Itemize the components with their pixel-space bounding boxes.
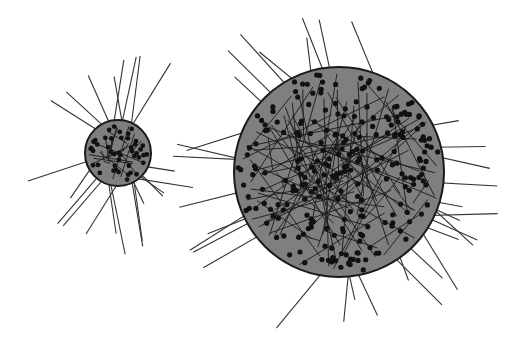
dot [125,177,130,182]
dot [238,167,243,172]
dot [311,219,316,224]
dot [390,212,395,217]
dot [335,197,340,202]
dot [399,171,404,176]
dot [332,132,337,137]
dot [374,251,379,256]
dot [358,213,363,218]
dot [112,152,117,157]
dot [407,188,412,193]
dot [244,208,249,213]
dot [119,135,124,140]
dot [246,194,251,199]
dot [253,206,258,211]
dot [321,172,326,177]
dot [338,170,343,175]
dot [403,237,408,242]
dot [293,89,298,94]
dot [385,130,390,135]
dot [352,114,357,119]
dot [348,209,353,214]
dot [320,80,325,85]
dot [398,228,403,233]
dot [252,163,257,168]
dot [324,226,329,231]
dot [287,252,292,257]
dot [316,179,321,184]
dot [322,244,327,249]
dot [356,251,361,256]
dot [291,183,296,188]
dot [379,155,384,160]
dot [339,251,344,256]
dot [354,147,359,152]
dot [419,211,424,216]
dot [270,104,275,109]
dot [245,152,250,157]
dot [399,112,404,117]
dot [308,131,313,136]
dot [343,106,348,111]
dot [407,112,412,117]
dot [262,122,267,127]
dot [389,123,394,128]
dot [336,151,341,156]
dot [260,187,265,192]
dot [112,124,117,129]
dot [275,119,280,124]
dot [300,81,305,86]
dot [241,182,246,187]
dot [97,171,102,176]
dot [333,176,338,181]
dot [375,168,380,173]
dot [417,113,422,118]
dot [394,161,399,166]
dot [116,170,121,175]
dot [276,202,281,207]
dot [333,101,338,106]
dot [348,167,353,172]
dot [129,126,134,131]
dot [392,149,397,154]
dot [348,256,353,261]
dot [361,267,366,272]
dot [253,141,258,146]
dot [374,132,379,137]
dot [415,126,420,131]
dot [355,258,360,263]
dot [319,140,324,145]
dot [418,158,423,163]
dot [332,233,337,238]
dot [377,86,382,91]
dot [320,148,325,153]
dot [416,175,421,180]
dot [360,233,365,238]
dot [386,117,391,122]
dot [422,138,427,143]
dot [335,111,340,116]
dot [305,82,310,87]
dot [394,114,399,119]
dot [330,255,335,260]
dot [343,169,348,174]
dot [323,108,328,113]
dot [342,164,347,169]
dot [435,149,440,154]
dot [393,132,398,137]
dot [295,94,300,99]
dot [341,229,346,234]
dot [292,79,297,84]
dot [276,216,281,221]
dot [306,102,311,107]
dot [359,207,364,212]
dot [323,161,328,166]
dot [355,181,360,186]
dot [270,213,275,218]
dot [91,163,96,168]
dot [281,233,286,238]
dot [348,262,353,267]
dot [268,207,273,212]
dot [134,139,139,144]
dot [403,175,408,180]
dot [141,160,146,165]
